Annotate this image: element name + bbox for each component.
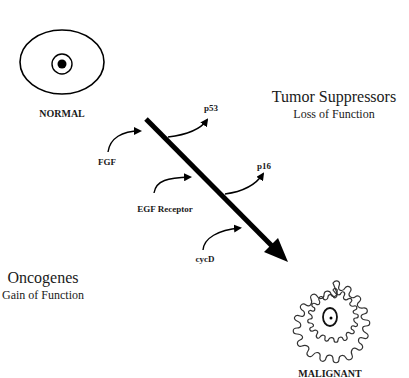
cycd-label: cycD <box>196 254 215 264</box>
cycd-arrow-icon <box>203 228 240 250</box>
tumor-suppressors-title: Tumor Suppressors <box>272 88 396 106</box>
p53-arrow-icon <box>168 120 207 137</box>
egf-receptor-label: EGF Receptor <box>137 204 192 214</box>
fgf-label: FGF <box>98 157 116 167</box>
p16-arrow-icon <box>225 174 263 194</box>
fgf-arrow-icon <box>108 131 140 152</box>
egf-receptor-arrow-icon <box>154 177 190 193</box>
normal-cell-icon <box>20 30 104 94</box>
malignant-cell-icon <box>293 281 370 363</box>
oncogenes-subtitle: Gain of Function <box>2 288 84 302</box>
normal-label: NORMAL <box>39 108 85 119</box>
progression-arrow <box>146 119 288 262</box>
oncogenes-title: Oncogenes <box>7 269 78 287</box>
p16-label: p16 <box>257 161 272 171</box>
progression-diagram: NORMAL Tumor Suppressors Loss of Functio… <box>0 0 409 378</box>
malignant-label: MALIGNANT <box>298 368 362 378</box>
p53-label: p53 <box>204 103 219 113</box>
tumor-suppressors-subtitle: Loss of Function <box>293 107 374 121</box>
